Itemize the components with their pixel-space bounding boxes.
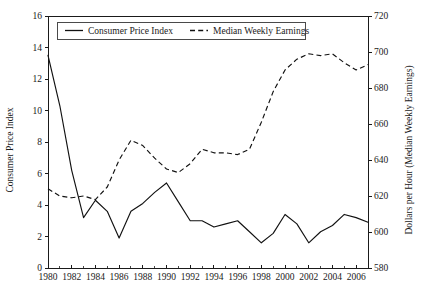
y-axis-left-tick-label: 16 [33, 11, 43, 21]
y-axis-left-ticks: 0246810121416 [33, 11, 49, 273]
x-axis-tick-label: 2004 [323, 272, 342, 282]
x-axis-tick-label: 1982 [62, 272, 81, 282]
x-axis-tick-label: 2002 [299, 272, 318, 282]
y-axis-left-tick-label: 4 [37, 200, 42, 210]
line-chart: 0246810121416 580600620640660680700720 1… [0, 0, 422, 304]
legend-item-label: Median Weekly Earnings [213, 26, 309, 36]
series-layer [48, 54, 368, 243]
y-axis-left-tick-label: 12 [33, 74, 43, 84]
x-axis-tick-label: 1984 [86, 272, 105, 282]
y-axis-right-tick-label: 700 [374, 47, 389, 57]
legend-item-label: Consumer Price Index [88, 26, 173, 36]
x-axis-tick-label: 1986 [110, 272, 129, 282]
y-axis-left-tick-label: 2 [37, 232, 42, 242]
y-axis-right-tick-label: 720 [374, 11, 389, 21]
y-axis-right-tick-label: 660 [374, 119, 389, 129]
y-axis-right-title: Dollars per Hour (Median Weekly Earnings… [404, 65, 415, 234]
y-axis-right-tick-label: 680 [374, 83, 389, 93]
x-axis-tick-label: 1992 [181, 272, 200, 282]
plot-area [48, 16, 368, 268]
x-axis-tick-label: 1994 [204, 272, 223, 282]
x-axis-tick-label: 1980 [39, 272, 58, 282]
y-axis-left-tick-label: 14 [33, 43, 43, 53]
series-line-median-weekly-earnings [48, 54, 368, 200]
x-axis-tick-label: 1988 [133, 272, 152, 282]
y-axis-right-tick-label: 580 [374, 263, 389, 273]
y-axis-left-tick-label: 8 [37, 137, 42, 147]
y-axis-right-tick-label: 620 [374, 191, 389, 201]
x-axis-tick-label: 2000 [276, 272, 295, 282]
x-axis-tick-label: 1998 [252, 272, 271, 282]
chart-container: 0246810121416 580600620640660680700720 1… [0, 0, 422, 304]
y-axis-left-title: Consumer Price Index [5, 107, 15, 192]
series-line-consumer-price-index [48, 55, 368, 242]
x-axis-ticks: 1980198219841986198819901992199419961998… [39, 265, 369, 283]
x-axis-tick-label: 2006 [347, 272, 366, 282]
y-axis-left-tick-label: 10 [33, 106, 43, 116]
chart-legend: Consumer Price IndexMedian Weekly Earnin… [57, 22, 309, 39]
y-axis-right-ticks: 580600620640660680700720 [368, 11, 389, 273]
y-axis-right-tick-label: 640 [374, 155, 389, 165]
x-axis-tick-label: 1990 [157, 272, 176, 282]
y-axis-right-tick-label: 600 [374, 227, 389, 237]
y-axis-left-tick-label: 6 [37, 169, 42, 179]
x-axis-tick-label: 1996 [228, 272, 247, 282]
